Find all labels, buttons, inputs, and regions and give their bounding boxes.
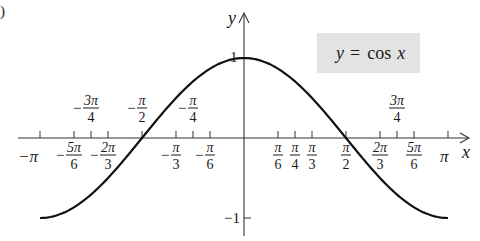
x-tick-label-den: 3 <box>172 157 179 172</box>
x-tick-label-num: π <box>172 140 180 155</box>
x-tick-label-num: π <box>291 140 299 155</box>
x-tick-label-den: 3 <box>104 157 111 172</box>
x-tick-label-num: π <box>206 140 214 155</box>
x-tick-label-num: π <box>308 140 316 155</box>
figure-label: ) <box>0 3 5 20</box>
x-ticks: −π5π6−3π4−2π3−π2−π3−π4−π6−π6π4π3π22π33π4… <box>18 93 449 172</box>
x-tick-label-num: 2π <box>373 140 388 155</box>
y-axis-label: y <box>226 8 236 28</box>
x-tick-label-num: 5π <box>67 140 82 155</box>
legend: y=cosx <box>317 33 420 73</box>
x-tick-label-den: 4 <box>189 110 196 125</box>
x-tick-label-sign: − <box>195 147 203 163</box>
x-tick-label-num: 3π <box>83 93 99 108</box>
x-tick-label-num: π <box>138 93 146 108</box>
x-axis-label: x <box>461 142 470 162</box>
x-tick-label-sign: − <box>161 147 169 163</box>
x-tick-label-den: 6 <box>71 157 78 172</box>
x-tick-label-den: 4 <box>88 110 95 125</box>
x-tick-label-num: π <box>189 93 197 108</box>
x-tick-label-den: 4 <box>292 157 299 172</box>
y-tick-label-1: 1 <box>230 49 238 65</box>
cosine-chart: ) y=cosx y x 1 −1 −π5π6−3π4−2π3−π2−π3−π4… <box>0 0 480 241</box>
x-tick-label-sign: − <box>178 100 186 116</box>
x-tick-label-den: 6 <box>206 157 213 172</box>
x-tick-label-num: π <box>274 140 282 155</box>
x-tick-label-sign: − <box>127 100 135 116</box>
y-tick-label-neg1: −1 <box>224 210 240 226</box>
x-tick-label-den: 6 <box>275 157 282 172</box>
x-tick-label-sign: − <box>73 100 81 116</box>
x-tick-label-den: 2 <box>138 110 145 125</box>
x-tick-label-den: 3 <box>377 157 384 172</box>
x-tick-label: π <box>440 147 449 166</box>
x-tick-label-num: 5π <box>407 140 422 155</box>
x-tick-label-den: 2 <box>343 157 350 172</box>
x-tick-label-den: 4 <box>393 110 400 125</box>
x-tick-label-den: 3 <box>309 157 316 172</box>
x-tick-label-den: 6 <box>410 157 417 172</box>
x-tick-label-num: 3π <box>389 93 405 108</box>
x-tick-label-num: 2π <box>101 140 116 155</box>
x-tick-label-sign: − <box>90 147 98 163</box>
x-tick-label-sign: − <box>56 147 64 163</box>
x-tick-label: −π <box>18 147 38 166</box>
